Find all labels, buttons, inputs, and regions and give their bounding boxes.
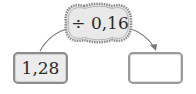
answer-box[interactable] xyxy=(128,52,183,84)
arrow-line xyxy=(128,28,154,47)
arrow-head-icon xyxy=(150,44,157,51)
connector-line xyxy=(40,28,70,51)
input-value-box: 1,28 xyxy=(13,52,68,84)
operator-label: ÷ 0,16 xyxy=(70,10,130,36)
input-value: 1,28 xyxy=(22,58,60,78)
